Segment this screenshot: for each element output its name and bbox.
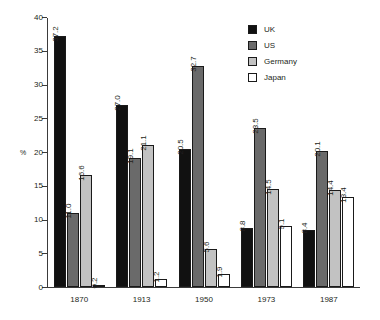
- legend-swatch-icon: [248, 73, 257, 82]
- bar-germany-1870[interactable]: 16.6: [80, 175, 92, 287]
- bar-value-label: 20.1: [314, 142, 322, 158]
- bar-group: 20.532.75.61.91950: [173, 18, 235, 287]
- y-axis-tick-label: 10: [34, 216, 43, 224]
- legend-swatch-icon: [248, 25, 257, 34]
- bar-us-1950[interactable]: 32.7: [192, 66, 204, 287]
- bar-uk-1950[interactable]: 20.5: [179, 149, 191, 287]
- y-axis-tick-label: 40: [34, 14, 43, 22]
- bar-us-1987[interactable]: 20.1: [316, 151, 328, 287]
- bar-value-label: 1.9: [216, 267, 224, 278]
- bar-group: 37.211.016.60.21870: [48, 18, 110, 287]
- bar-value-label: 37.2: [52, 26, 60, 42]
- y-axis-title: %: [20, 149, 26, 156]
- bar-uk-1870[interactable]: 37.2: [54, 36, 66, 287]
- y-axis-tick-label: 20: [34, 149, 43, 157]
- bar-value-label: 11.0: [65, 203, 73, 218]
- y-axis-tick-label: 30: [34, 81, 43, 89]
- bar-group: 27.019.121.11.21913: [110, 18, 172, 287]
- y-axis-tick-label: 15: [34, 182, 43, 190]
- y-axis-tick-label: 25: [34, 115, 43, 123]
- legend-item-uk[interactable]: UK: [248, 22, 297, 36]
- x-axis-tick-label: 1950: [195, 296, 213, 304]
- bar-us-1870[interactable]: 11.0: [67, 213, 79, 287]
- bar-value-label: 8.4: [301, 223, 309, 234]
- y-axis-tick-label: 5: [39, 250, 43, 258]
- bar-value-label: 21.1: [140, 135, 148, 151]
- bar-germany-1973[interactable]: 14.5: [267, 189, 279, 287]
- bar-us-1913[interactable]: 19.1: [129, 158, 141, 287]
- legend-item-label: Japan: [264, 73, 286, 82]
- bar-uk-1913[interactable]: 27.0: [116, 105, 128, 287]
- bar-germany-1987[interactable]: 14.4: [329, 190, 341, 287]
- chart-legend: UKUSGermanyJapan: [248, 22, 297, 86]
- bar-japan-1987[interactable]: 13.4: [342, 197, 354, 287]
- bar-japan-1870[interactable]: 0.2: [93, 285, 105, 287]
- bar-group: 8.420.114.413.41987: [298, 18, 360, 287]
- legend-swatch-icon: [248, 57, 257, 66]
- bar-japan-1913[interactable]: 1.2: [155, 279, 167, 287]
- bar-value-label: 5.6: [203, 242, 211, 253]
- bar-value-label: 13.4: [340, 187, 348, 203]
- x-axis-tick-label: 1987: [320, 296, 338, 304]
- bar-value-label: 9.1: [278, 218, 286, 229]
- bar-uk-1987[interactable]: 8.4: [303, 230, 315, 287]
- bar-value-label: 32.7: [190, 56, 198, 72]
- bar-groups: 37.211.016.60.2187027.019.121.11.2191320…: [48, 18, 360, 287]
- bar-value-label: 8.8: [239, 220, 247, 231]
- legend-item-label: UK: [264, 25, 275, 34]
- bar-value-label: 20.5: [177, 139, 185, 155]
- bar-japan-1950[interactable]: 1.9: [218, 274, 230, 287]
- bar-germany-1913[interactable]: 21.1: [142, 145, 154, 287]
- y-axis-tick-label: 35: [34, 47, 43, 55]
- legend-item-label: US: [264, 41, 275, 50]
- x-axis-tick-label: 1973: [258, 296, 276, 304]
- bar-value-label: 27.0: [114, 95, 122, 111]
- bar-value-label: 14.5: [265, 179, 273, 195]
- bar-us-1973[interactable]: 23.5: [254, 128, 266, 287]
- bar-value-label: 16.6: [78, 165, 86, 181]
- bar-japan-1973[interactable]: 9.1: [280, 226, 292, 287]
- x-axis-tick-label: 1870: [70, 296, 88, 304]
- bar-value-label: 23.5: [252, 119, 260, 135]
- legend-swatch-icon: [248, 41, 257, 50]
- legend-item-us[interactable]: US: [248, 38, 297, 52]
- legend-item-japan[interactable]: Japan: [248, 70, 297, 84]
- bar-value-label: 14.4: [327, 180, 335, 196]
- bar-chart: UKUSGermanyJapan 0510152025303540 37.211…: [0, 0, 380, 320]
- bar-value-label: 0.2: [91, 277, 99, 288]
- bar-value-label: 19.1: [127, 148, 135, 164]
- bar-uk-1973[interactable]: 8.8: [241, 228, 253, 287]
- y-axis-tick-label: 0: [39, 284, 43, 292]
- legend-item-label: Germany: [264, 57, 297, 66]
- bar-value-label: 1.2: [153, 271, 161, 282]
- plot-area: 0510152025303540 37.211.016.60.2187027.0…: [47, 18, 360, 288]
- legend-item-germany[interactable]: Germany: [248, 54, 297, 68]
- x-axis-tick-label: 1913: [133, 296, 151, 304]
